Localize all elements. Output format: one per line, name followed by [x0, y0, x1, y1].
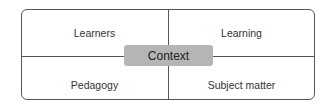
context-label: Context	[148, 49, 189, 63]
quadrant-subject-matter: Subject matter	[168, 79, 315, 91]
quadrant-pedagogy: Pedagogy	[21, 79, 168, 91]
quadrant-learning: Learning	[168, 27, 315, 39]
quadrant-learners: Learners	[21, 27, 168, 39]
context-center-box: Context	[124, 45, 213, 66]
